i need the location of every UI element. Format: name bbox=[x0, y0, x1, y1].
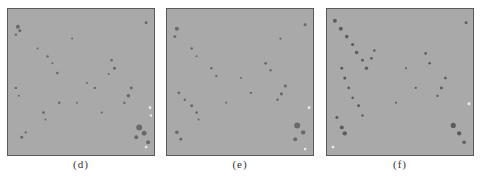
image-panel-e bbox=[166, 8, 314, 156]
texture-image-e bbox=[167, 9, 313, 155]
panel-label-e: (e) bbox=[166, 158, 314, 170]
texture-image-f bbox=[327, 9, 473, 155]
panel-label-f: (f) bbox=[326, 158, 474, 170]
image-panel-f bbox=[326, 8, 474, 156]
image-panel-d bbox=[7, 8, 155, 156]
texture-image-d bbox=[8, 9, 154, 155]
panel-label-d: (d) bbox=[7, 158, 155, 170]
